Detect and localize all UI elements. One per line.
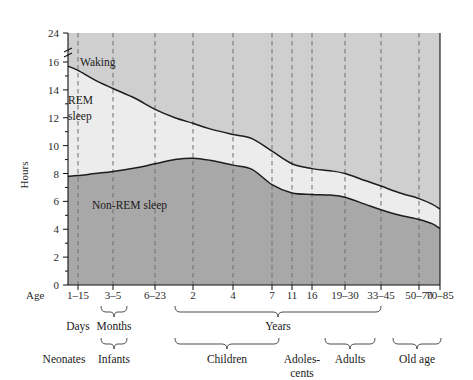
x-tick-label: 70–85 (426, 289, 454, 301)
y-tick-label: 2 (54, 251, 60, 263)
y-tick-label: 24 (48, 27, 60, 39)
life-stage-label-old-age: Old age (399, 353, 435, 366)
y-tick-label: 8 (54, 168, 60, 180)
children-bracket (175, 338, 279, 349)
y-tick-label: 16 (48, 56, 60, 68)
x-axis-prefix-label: Age (26, 289, 44, 301)
unit-group-row: Days Months Years (66, 306, 381, 333)
unit-group-label-months: Months (96, 320, 132, 332)
x-tick-label: 33–45 (367, 289, 395, 301)
life-stage-label-infants: Infants (98, 353, 130, 365)
rem-label-line1: REM (68, 94, 93, 106)
x-axis-tick-labels: 1–153–56–23247111619–3033–4550–7070–85 (67, 289, 454, 301)
y-tick-label: 6 (54, 195, 60, 207)
x-tick-label: 6–23 (144, 289, 167, 301)
life-stage-label-adolescents-line2: cents (290, 367, 314, 379)
x-tick-label: 16 (307, 289, 319, 301)
y-tick-label: 4 (54, 223, 60, 235)
y-tick-label: 10 (48, 140, 60, 152)
x-tick-label: 19–30 (331, 289, 359, 301)
infants-bracket (101, 338, 127, 349)
x-tick-label: 2 (190, 289, 196, 301)
x-tick-label: 4 (230, 289, 236, 301)
x-tick-label: 3–5 (105, 289, 122, 301)
months-bracket (101, 306, 127, 317)
adults-bracket (325, 338, 375, 349)
life-stage-label-children: Children (207, 353, 247, 365)
unit-group-label-years: Years (265, 320, 291, 332)
y-tick-label: 0 (54, 279, 60, 291)
life-stage-label-neonates: Neonates (43, 353, 86, 365)
x-tick-label: 7 (269, 289, 275, 301)
years-bracket (175, 306, 381, 317)
x-tick-label: 1–15 (67, 289, 90, 301)
life-stage-label-adults: Adults (335, 353, 366, 365)
rem-label-line2: sleep (68, 110, 92, 123)
unit-group-label-days: Days (66, 320, 90, 333)
old-age-bracket (393, 338, 441, 349)
life-stage-label-adolescents-line1: Adoles- (284, 353, 321, 365)
sleep-across-lifespan-chart: 241614121086420 Hours 1–153–56–232471116… (0, 0, 473, 380)
waking-label: Waking (80, 56, 116, 69)
x-tick-label: 11 (287, 289, 298, 301)
y-axis-title: Hours (18, 162, 30, 189)
life-stage-group-row: Neonates Infants Children Adoles- cents … (43, 338, 441, 379)
y-tick-label: 12 (48, 112, 59, 124)
chart-svg: 241614121086420 Hours 1–153–56–232471116… (0, 0, 473, 380)
y-axis-ticks: 241614121086420 (48, 27, 68, 291)
y-tick-label: 14 (48, 84, 60, 96)
non-rem-label: Non-REM sleep (92, 199, 167, 212)
